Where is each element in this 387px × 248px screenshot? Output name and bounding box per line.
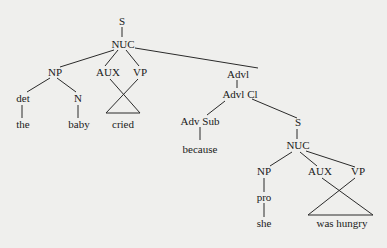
leaf-cried: cried: [112, 119, 134, 130]
node-adv-sub: Adv Sub: [181, 116, 220, 127]
node-det: det: [16, 93, 29, 104]
leaf-was-hungry: was hungry: [316, 218, 367, 229]
node-aux-sub: AUX: [308, 166, 332, 177]
node-nuc-sub: NUC: [286, 140, 309, 151]
node-n: N: [74, 93, 82, 104]
leaf-she: she: [257, 218, 272, 229]
leaf-baby: baby: [68, 119, 89, 130]
node-vp-sub: VP: [351, 166, 365, 177]
node-pro: pro: [257, 192, 272, 203]
node-s-root: S: [119, 16, 125, 27]
leaf-because: because: [183, 144, 218, 155]
node-advl: Advl: [227, 69, 249, 80]
node-advl-cl: Advl Cl: [222, 89, 257, 100]
node-s-sub: S: [295, 117, 301, 128]
node-nuc-main: NUC: [111, 39, 134, 50]
node-np-sub: NP: [257, 166, 271, 177]
node-np-main: NP: [48, 67, 62, 78]
leaf-the: the: [16, 119, 29, 130]
node-aux-main: AUX: [96, 67, 120, 78]
node-vp-main: VP: [133, 67, 147, 78]
